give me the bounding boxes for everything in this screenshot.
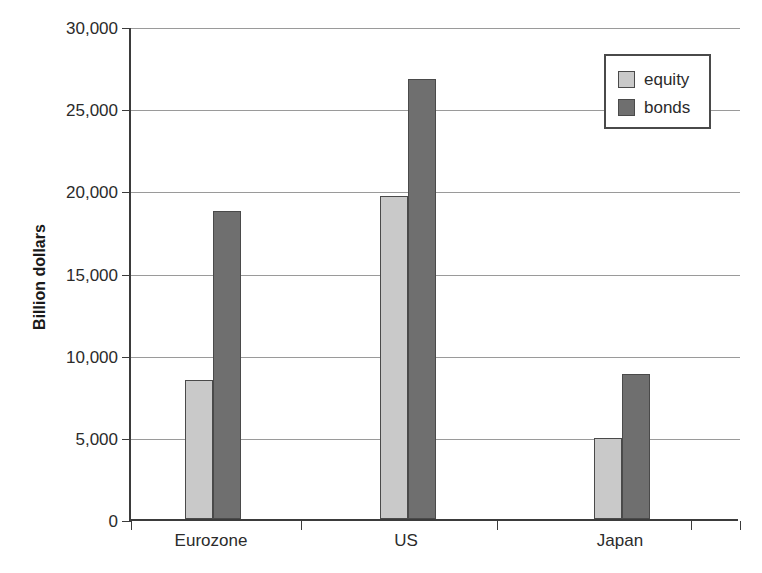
x-axis-label-us: US <box>394 531 418 551</box>
y-axis-tick <box>122 439 131 440</box>
bar-eurozone-equity <box>185 380 213 519</box>
legend-swatch-equity <box>618 71 635 88</box>
y-axis-tick-label: 30,000 <box>66 20 118 37</box>
legend-item-bonds[interactable]: bonds <box>618 93 709 121</box>
x-axis-tick <box>691 521 692 530</box>
chart-figure: Billion dollars 30,00025,00020,00015,000… <box>0 0 762 573</box>
legend: equitybonds <box>604 54 711 129</box>
x-axis-tick <box>740 521 741 530</box>
legend-swatch-bonds <box>618 99 635 116</box>
x-axis-label-japan: Japan <box>597 531 643 551</box>
y-axis-tick-label: 15,000 <box>66 267 118 284</box>
bar-japan-bonds <box>622 374 650 519</box>
legend-item-equity[interactable]: equity <box>618 65 709 93</box>
bar-eurozone-bonds <box>213 211 241 519</box>
y-axis-tick-label: 0 <box>109 513 118 530</box>
x-axis-tick <box>131 521 132 530</box>
y-axis-tick-label: 5,000 <box>75 431 118 448</box>
y-axis-tick <box>122 275 131 276</box>
bar-us-bonds <box>408 79 436 519</box>
x-axis-tick <box>301 521 302 530</box>
y-axis-tick <box>122 357 131 358</box>
x-axis-tick <box>497 521 498 530</box>
y-axis-tick <box>122 521 131 522</box>
y-axis-tick <box>122 28 131 29</box>
bar-japan-equity <box>594 438 622 519</box>
gridline <box>131 28 740 29</box>
x-axis-label-eurozone: Eurozone <box>175 531 248 551</box>
y-axis-tick <box>122 110 131 111</box>
y-axis-tick <box>122 192 131 193</box>
y-axis-tick-label: 20,000 <box>66 184 118 201</box>
legend-label-bonds: bonds <box>644 99 690 116</box>
y-axis-tick-label: 25,000 <box>66 102 118 119</box>
bar-us-equity <box>380 196 408 519</box>
legend-label-equity: equity <box>644 71 689 88</box>
y-axis-tick-label: 10,000 <box>66 349 118 366</box>
y-axis-tick-labels: 30,00025,00020,00015,00010,0005,0000 <box>0 0 118 573</box>
